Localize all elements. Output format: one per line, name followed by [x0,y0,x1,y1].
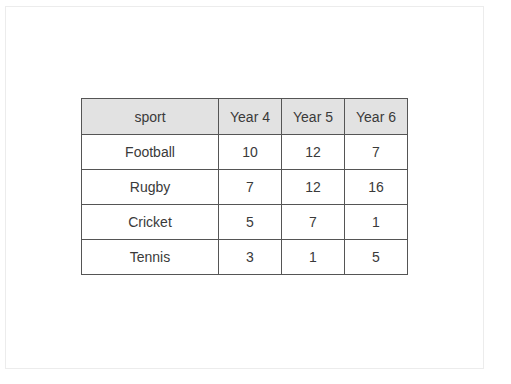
cell-year-6: 1 [345,205,408,240]
header-year-5: Year 5 [282,99,345,135]
table-row: Football 10 12 7 [82,135,408,170]
header-year-6: Year 6 [345,99,408,135]
cell-sport: Tennis [82,240,219,275]
cell-year-4: 7 [219,170,282,205]
cell-year-6: 7 [345,135,408,170]
cell-year-4: 10 [219,135,282,170]
cell-year-5: 12 [282,170,345,205]
cell-year-4: 5 [219,205,282,240]
header-row: sport Year 4 Year 5 Year 6 [82,99,408,135]
header-sport: sport [82,99,219,135]
table-body: Football 10 12 7 Rugby 7 12 16 Cricket 5… [82,135,408,275]
cell-sport: Football [82,135,219,170]
cell-year-4: 3 [219,240,282,275]
table-row: Cricket 5 7 1 [82,205,408,240]
cell-year-6: 16 [345,170,408,205]
cell-sport: Cricket [82,205,219,240]
header-year-4: Year 4 [219,99,282,135]
cell-year-5: 12 [282,135,345,170]
table-row: Rugby 7 12 16 [82,170,408,205]
cell-sport: Rugby [82,170,219,205]
sports-table: sport Year 4 Year 5 Year 6 Football 10 1… [81,98,408,275]
cell-year-5: 1 [282,240,345,275]
table-row: Tennis 3 1 5 [82,240,408,275]
cell-year-6: 5 [345,240,408,275]
cell-year-5: 7 [282,205,345,240]
table-header: sport Year 4 Year 5 Year 6 [82,99,408,135]
